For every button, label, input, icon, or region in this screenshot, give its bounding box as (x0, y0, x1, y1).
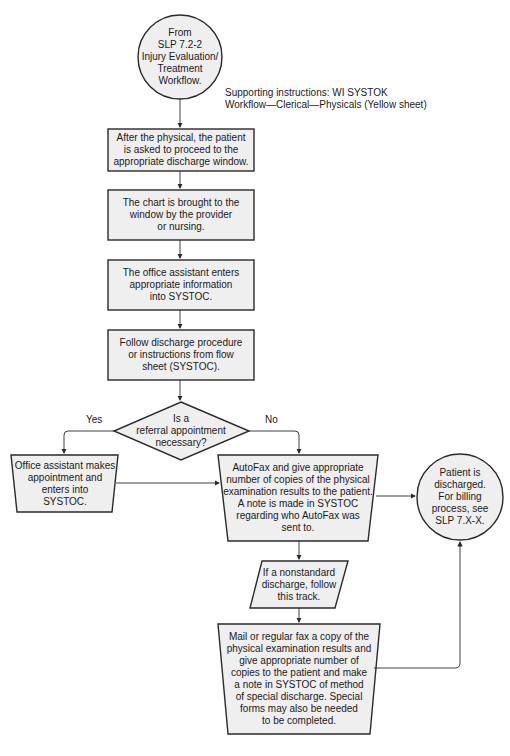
step-2-text: The chart is brought to the window by th… (108, 190, 254, 240)
supporting-note: Supporting instructions: WI SYSTOK Workf… (225, 87, 505, 111)
arrow-no (249, 431, 299, 453)
arrow-yes (64, 431, 114, 453)
no-label: No (265, 414, 278, 426)
arrow-special-to-end (374, 542, 460, 668)
nonstandard-text: If a nonstandard discharge, follow this … (256, 561, 342, 608)
step-1-text: After the physical, the patient is asked… (108, 129, 254, 171)
start-text: From SLP 7.2-2 Injury Evaluation/ Treatm… (138, 20, 222, 94)
special-text: Mail or regular fax a copy of the physic… (220, 626, 378, 732)
no-branch-text: AutoFax and give appropriate number of c… (218, 456, 378, 540)
yes-label: Yes (86, 414, 102, 426)
yes-branch-text: Office assistant makes appointment and e… (12, 456, 118, 512)
step-4-text: Follow discharge procedure or instructio… (108, 330, 254, 380)
step-3-text: The office assistant enters appropriate … (108, 260, 254, 310)
decision-text: Is a referral appointment necessary? (125, 410, 237, 452)
end-text: Patient is discharged. For billing proce… (420, 462, 500, 532)
